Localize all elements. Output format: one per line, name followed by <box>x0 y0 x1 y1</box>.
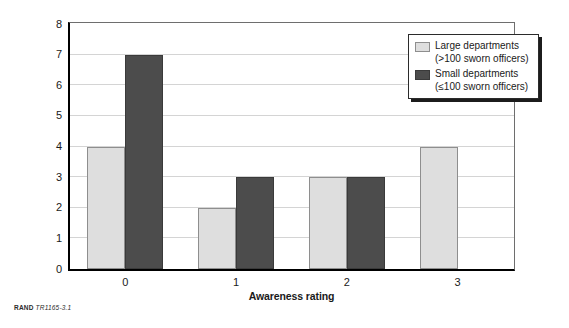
figure-credit: RAND TR1165-3.1 <box>14 304 71 311</box>
y-tick-label: 4 <box>36 140 62 152</box>
y-tick-label: 8 <box>36 18 62 30</box>
y-tick-label: 5 <box>36 109 62 121</box>
legend-swatch-light-icon <box>415 42 430 52</box>
y-tick-label: 7 <box>36 48 62 60</box>
bar <box>87 147 125 270</box>
legend-entry-large: Large departments (>100 sworn officers) <box>415 40 532 65</box>
y-axis-tick-labels: 012345678 <box>36 22 62 271</box>
x-tick-label: 3 <box>402 274 513 290</box>
y-tick-label: 6 <box>36 79 62 91</box>
legend-label-large: Large departments (>100 sworn officers) <box>435 40 528 65</box>
bar <box>420 147 458 270</box>
legend-label-small-line1: Small departments <box>435 68 518 79</box>
x-tick-label: 2 <box>292 274 403 290</box>
legend-label-small-line2: (≤100 sworn officers) <box>435 81 528 94</box>
x-axis-tick-labels: 0123 <box>68 274 515 290</box>
x-tick-label: 1 <box>181 274 292 290</box>
y-tick-label: 1 <box>36 232 62 244</box>
credit-source: RAND <box>14 304 34 311</box>
y-tick-label: 0 <box>36 263 62 275</box>
legend-label-small: Small departments (≤100 sworn officers) <box>435 68 528 93</box>
x-tick-label: 0 <box>70 274 181 290</box>
legend-label-large-line1: Large departments <box>435 40 519 51</box>
bar <box>198 208 236 269</box>
bar <box>309 177 347 269</box>
bar <box>125 55 163 269</box>
bar <box>347 177 385 269</box>
legend-swatch-dark-icon <box>415 70 430 80</box>
legend-label-large-line2: (>100 sworn officers) <box>435 53 528 66</box>
y-tick-label: 3 <box>36 171 62 183</box>
legend-entry-small: Small departments (≤100 sworn officers) <box>415 68 532 93</box>
bar <box>236 177 274 269</box>
y-tick-label: 2 <box>36 201 62 213</box>
credit-figure-number: TR1165-3.1 <box>36 304 72 311</box>
x-axis-title: Awareness rating <box>68 290 515 302</box>
chart-figure: Number of departments 012345678 0123 Awa… <box>0 0 569 328</box>
chart-legend: Large departments (>100 sworn officers) … <box>408 34 539 99</box>
